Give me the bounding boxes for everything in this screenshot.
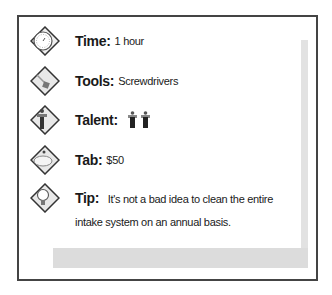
card-shadow-bottom: [53, 248, 308, 268]
card-shadow-right: [301, 40, 308, 268]
talent-label: Talent:: [75, 112, 118, 128]
tab-value: $50: [106, 154, 123, 166]
talent-rating: [128, 111, 150, 129]
lightbulb-icon: [30, 183, 60, 213]
mechanic-figure-icon: [128, 111, 137, 129]
tools-value: Screwdrivers: [118, 75, 178, 87]
tools-label: Tools:: [75, 73, 114, 89]
mechanic-figure-icon: [141, 111, 150, 129]
tab-label: Tab:: [75, 152, 102, 168]
tip-row: Tip: It's not a bad idea to clean the en…: [30, 183, 290, 233]
clock-icon: [30, 26, 60, 56]
tip-text: Tip: It's not a bad idea to clean the en…: [75, 187, 290, 233]
tools-icon: [30, 66, 60, 96]
talent-row: Talent:: [30, 103, 150, 137]
tools-row: Tools: Screwdrivers: [30, 64, 178, 98]
time-row: Time: 1 hour: [30, 24, 144, 58]
time-value: 1 hour: [115, 35, 144, 47]
talent-icon: [30, 105, 60, 135]
tip-label: Tip:: [75, 190, 99, 206]
tip-value: It's not a bad idea to clean the entire …: [75, 193, 273, 228]
tab-icon: [30, 145, 60, 175]
tab-row: Tab: $50: [30, 143, 124, 177]
time-label: Time:: [75, 33, 111, 49]
